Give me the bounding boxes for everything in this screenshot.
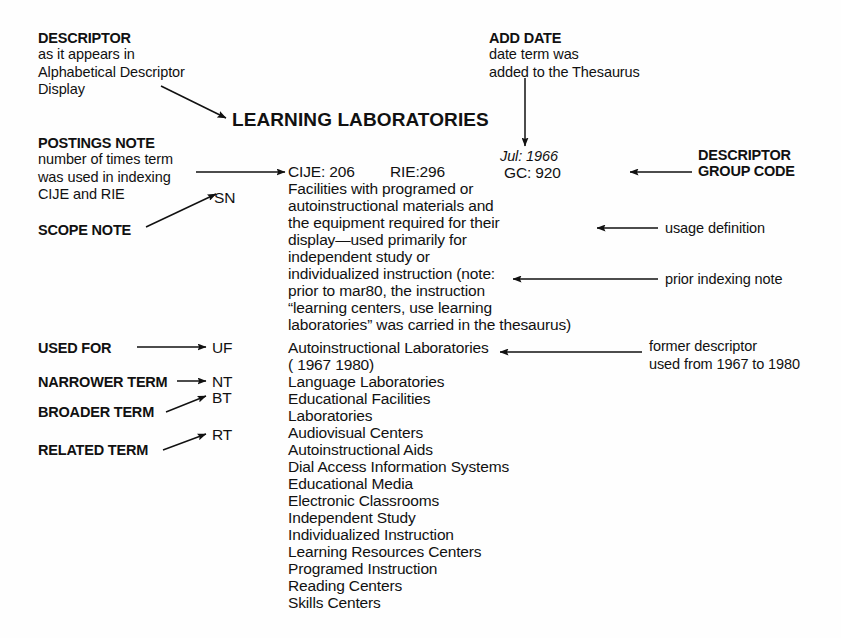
scope-note-line: Facilities with programed or — [288, 180, 571, 197]
annotation-postings-note-line-1: number of times term — [38, 151, 173, 169]
arrow-related-to-rt — [163, 434, 206, 450]
annotation-descriptor-line-1: as it appears in — [38, 46, 185, 64]
annotation-postings-note-line-2: was used in indexing — [38, 169, 173, 187]
term-item: Language Laboratories — [288, 373, 444, 390]
postings-rie: RIE:296 — [390, 163, 445, 180]
annotation-descriptor-line-2: Alphabetical Descriptor — [38, 64, 185, 82]
term-item: Educational Facilities — [288, 390, 430, 407]
annotation-narrower-term: NARROWER TERM — [38, 374, 168, 390]
annotation-descriptor-group-code: DESCRIPTOR GROUP CODE — [698, 147, 795, 179]
descriptor-title: LEARNING LABORATORIES — [232, 109, 489, 131]
term-item: Dial Access Information Systems — [288, 458, 509, 475]
annotation-add-date-title: ADD DATE — [489, 30, 640, 46]
tag-bt: BT — [212, 389, 232, 407]
thesaurus-record-diagram: DESCRIPTOR as it appears in Alphabetical… — [0, 0, 841, 638]
term-item: Autoinstructional Aids — [288, 441, 509, 458]
record-add-date: Jul: 1966 — [500, 148, 558, 164]
term-item: ( 1967 1980) — [288, 356, 489, 373]
annotation-descriptor-line-3: Display — [38, 81, 185, 99]
annotation-broader-term: BROADER TERM — [38, 404, 154, 420]
tag-sn: SN — [214, 189, 235, 207]
annotation-related-term: RELATED TERM — [38, 442, 148, 458]
used-for-terms: Autoinstructional Laboratories ( 1967 19… — [288, 339, 489, 373]
annotation-add-date-line-1: date term was — [489, 46, 640, 64]
narrower-terms: Language Laboratories — [288, 373, 444, 390]
annotation-used-for: USED FOR — [38, 340, 111, 356]
related-terms: Audiovisual Centers Autoinstructional Ai… — [288, 424, 509, 611]
annotation-postings-note-line-3: CIJE and RIE — [38, 186, 173, 204]
term-item: Audiovisual Centers — [288, 424, 509, 441]
annotation-descriptor-title: DESCRIPTOR — [38, 30, 185, 46]
term-item: Skills Centers — [288, 594, 509, 611]
annotation-scope-note: SCOPE NOTE — [38, 222, 131, 238]
term-item: Educational Media — [288, 475, 509, 492]
term-item: Autoinstructional Laboratories — [288, 339, 489, 356]
annotation-group-code-line-1: DESCRIPTOR — [698, 147, 795, 163]
scope-note-line: display—used primarily for — [288, 231, 571, 248]
scope-note-line: individualized instruction (note: — [288, 265, 571, 282]
postings-cije: CIJE: 206 — [288, 163, 355, 180]
scope-note-line: the equipment required for their — [288, 214, 571, 231]
record-group-code: GC: 920 — [504, 164, 561, 181]
scope-note-line: independent study or — [288, 248, 571, 265]
scope-note-line: laboratories” was carried in the thesaur… — [288, 316, 571, 333]
term-item: Individualized Instruction — [288, 526, 509, 543]
term-item: Laboratories — [288, 407, 430, 424]
tag-rt: RT — [212, 426, 232, 444]
annotation-postings-note-title: POSTINGS NOTE — [38, 135, 173, 151]
annotation-former-descriptor-line-2: used from 1967 to 1980 — [649, 356, 800, 374]
tag-uf: UF — [212, 339, 232, 357]
scope-note-line: autoinstructional materials and — [288, 197, 571, 214]
annotation-group-code-line-2: GROUP CODE — [698, 163, 795, 179]
term-item: Learning Resources Centers — [288, 543, 509, 560]
annotation-prior-indexing-note: prior indexing note — [665, 271, 782, 289]
term-item: Independent Study — [288, 509, 509, 526]
annotation-postings-note: POSTINGS NOTE number of times term was u… — [38, 135, 173, 204]
annotation-add-date-line-2: added to the Thesaurus — [489, 64, 640, 82]
annotation-add-date: ADD DATE date term was added to the Thes… — [489, 30, 640, 81]
term-item: Reading Centers — [288, 577, 509, 594]
annotation-usage-definition: usage definition — [665, 220, 765, 238]
term-item: Electronic Classrooms — [288, 492, 509, 509]
annotation-former-descriptor-line-1: former descriptor — [649, 338, 800, 356]
annotation-descriptor: DESCRIPTOR as it appears in Alphabetical… — [38, 30, 185, 99]
scope-note-line: “learning centers, use learning — [288, 299, 571, 316]
broader-terms: Educational Facilities Laboratories — [288, 390, 430, 424]
scope-note-line: prior to mar80, the instruction — [288, 282, 571, 299]
annotation-former-descriptor: former descriptor used from 1967 to 1980 — [649, 338, 800, 373]
scope-note-body: Facilities with programed or autoinstruc… — [288, 180, 571, 333]
arrow-broader-to-bt — [166, 396, 206, 412]
term-item: Programed Instruction — [288, 560, 509, 577]
